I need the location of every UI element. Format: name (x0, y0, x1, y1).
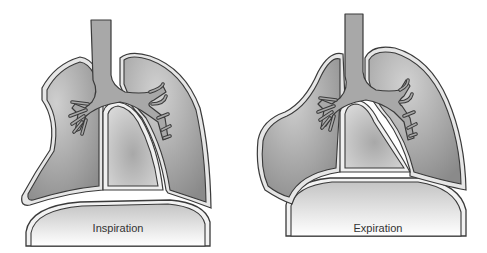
label-expiration: Expiration (354, 222, 403, 234)
panel-expiration: Expiration (257, 14, 466, 236)
left-lung (22, 57, 103, 205)
lung-diagram: Inspiration Exp (0, 0, 487, 253)
label-inspiration: Inspiration (93, 222, 144, 234)
panel-inspiration: Inspiration (22, 20, 211, 246)
